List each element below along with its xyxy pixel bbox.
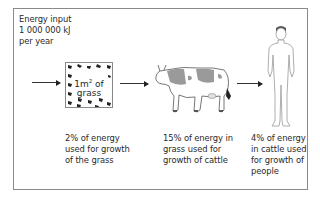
energy-input-line-2: 1 000 000 kJ [19, 25, 70, 36]
person-icon [265, 25, 297, 129]
cattle-caption-line-2: grass used for [163, 144, 221, 155]
grass-label: grass [66, 88, 112, 99]
cow-icon [152, 62, 234, 118]
grass-square: 1m2 of grass [65, 62, 113, 108]
arrow-to-cattle-icon [120, 83, 148, 84]
people-caption-line-1: 4% of energy [251, 133, 306, 144]
grass-caption-line-2: used for growth [65, 144, 130, 155]
grass-caption-line-1: 2% of energy [65, 133, 120, 144]
people-caption-line-4: people [251, 166, 279, 177]
energy-input-line-1: Energy input [19, 14, 71, 25]
cattle-caption-line-3: growth of cattle [163, 155, 228, 166]
arrow-to-grass-icon [32, 82, 60, 83]
people-caption-line-3: for growth of [251, 155, 304, 166]
grass-caption-line-3: of the grass [65, 155, 114, 166]
people-caption-line-2: in cattle used [251, 144, 306, 155]
arrow-to-people-icon [237, 83, 262, 84]
energy-input-line-3: per year [19, 36, 53, 47]
cattle-caption-line-1: 15% of energy in [163, 133, 233, 144]
